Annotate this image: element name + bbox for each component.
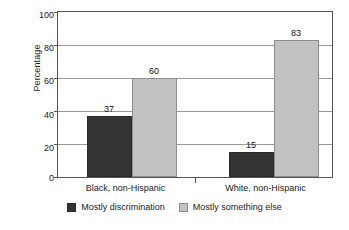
y-tick-mark-100 <box>54 12 58 13</box>
legend-item-mostly-something-else[interactable]: Mostly something else <box>179 202 282 212</box>
x-axis-label-black-non-hispanic: Black, non-Hispanic <box>66 183 185 193</box>
x-axis-label-white-non-hispanic: White, non-Hispanic <box>206 183 325 193</box>
y-tick-mark-60 <box>54 78 58 79</box>
legend-swatch-icon-light <box>179 203 188 212</box>
legend-swatch-icon-dark <box>67 203 76 212</box>
bar-white-mostly-something-else[interactable] <box>274 40 319 177</box>
y-tick-label-40: 40 <box>20 111 54 120</box>
bar-black-mostly-discrimination[interactable] <box>87 116 132 177</box>
bar-value-white-mostly-something-else: 83 <box>279 28 313 38</box>
bar-black-mostly-something-else[interactable] <box>132 78 177 177</box>
legend-label-mostly-discrimination: Mostly discrimination <box>81 202 165 212</box>
y-tick-mark-80 <box>54 45 58 46</box>
y-tick-label-60: 60 <box>20 77 54 86</box>
y-tick-mark-40 <box>54 111 58 112</box>
y-tick-mark-20 <box>54 144 58 145</box>
legend-label-mostly-something-else: Mostly something else <box>193 202 282 212</box>
bar-white-mostly-discrimination[interactable] <box>229 152 274 177</box>
plot-area: 37 60 15 83 <box>57 11 333 178</box>
y-axis-tick-labels: 100 80 60 40 20 0 <box>18 0 54 230</box>
x-axis-category-divider <box>195 178 196 183</box>
y-tick-label-0: 0 <box>20 174 54 183</box>
chart-legend: Mostly discrimination Mostly something e… <box>0 202 349 212</box>
bar-chart-figure: Percentage 100 80 60 40 20 0 37 60 15 83 <box>0 0 349 230</box>
y-tick-mark-0 <box>54 177 58 178</box>
bar-value-white-mostly-discrimination: 15 <box>234 140 268 150</box>
y-tick-label-100: 100 <box>20 11 54 20</box>
legend-item-mostly-discrimination[interactable]: Mostly discrimination <box>67 202 165 212</box>
y-tick-label-80: 80 <box>20 44 54 53</box>
bar-value-black-mostly-discrimination: 37 <box>92 104 126 114</box>
y-tick-label-20: 20 <box>20 144 54 153</box>
bar-value-black-mostly-something-else: 60 <box>137 66 171 76</box>
